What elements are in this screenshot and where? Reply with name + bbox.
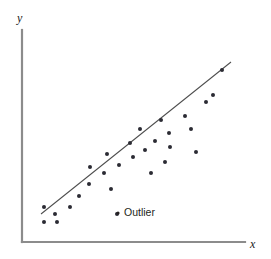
- data-point: [105, 152, 109, 156]
- data-point: [53, 212, 57, 216]
- data-point: [149, 171, 153, 175]
- trend-line: [41, 62, 231, 214]
- data-point: [42, 220, 46, 224]
- y-axis-label: y: [17, 12, 22, 24]
- fitted-regression-line: [41, 62, 231, 214]
- data-point: [88, 165, 92, 169]
- data-point: [167, 131, 171, 135]
- outlier-bullet-icon: [116, 211, 119, 214]
- data-point: [68, 205, 72, 209]
- x-axis-label: x: [250, 238, 255, 250]
- data-point: [153, 139, 157, 143]
- data-point: [211, 93, 215, 97]
- data-point: [42, 205, 46, 209]
- scatter-plot-figure: y x Outlier: [0, 0, 271, 259]
- data-point: [143, 148, 147, 152]
- data-point: [220, 68, 224, 72]
- outlier-annotation-label: Outlier: [124, 207, 155, 218]
- data-points: [42, 68, 224, 224]
- data-point: [189, 127, 193, 131]
- data-point: [55, 220, 59, 224]
- data-point: [204, 100, 208, 104]
- data-point: [183, 114, 187, 118]
- data-point: [138, 127, 142, 131]
- data-point: [163, 160, 167, 164]
- data-point: [159, 118, 163, 122]
- data-point: [131, 155, 135, 159]
- data-point: [87, 182, 91, 186]
- data-point: [194, 150, 198, 154]
- data-point: [168, 145, 172, 149]
- data-point: [128, 141, 132, 145]
- data-point: [77, 194, 81, 198]
- plot-canvas: [0, 0, 271, 259]
- bullet-icon: [116, 211, 119, 214]
- data-point: [109, 187, 113, 191]
- data-point: [102, 171, 106, 175]
- data-point: [117, 163, 121, 167]
